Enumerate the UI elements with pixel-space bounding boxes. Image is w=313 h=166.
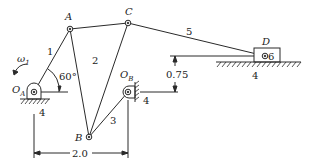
omega-arrowhead-icon: [13, 70, 18, 75]
label-link-5: 5: [186, 26, 192, 37]
dim-arrow-right-icon: [122, 151, 128, 155]
link-1: [34, 29, 70, 92]
label-d: D: [261, 36, 270, 47]
link-2-ac: [70, 23, 128, 29]
ground-slider: [216, 62, 301, 67]
label-angle: 60°: [59, 71, 77, 82]
label-oa: OA: [12, 84, 25, 98]
dim-arrow-down-icon: [173, 86, 177, 92]
label-ground-oa: 4: [39, 107, 45, 118]
dim-arrow-up-icon: [173, 56, 177, 62]
dim-label-vertical: 0.75: [166, 69, 188, 80]
link-3: [89, 92, 128, 137]
label-link-3: 3: [110, 115, 116, 126]
dim-arrow-left-icon: [34, 151, 40, 155]
label-a: A: [64, 11, 72, 22]
link-5: [128, 23, 265, 56]
link-2-bc: [89, 23, 128, 137]
label-link-2: 2: [92, 55, 98, 66]
label-b: B: [74, 132, 82, 143]
label-c: C: [125, 6, 133, 17]
angle-arrow-icon: [58, 86, 61, 91]
label-ground-d: 4: [252, 70, 258, 81]
mechanism-diagram: A C B D OA OB 1 2 3 5 6 4 4 4 ω1 60° 2.0…: [0, 0, 313, 166]
link-2-ab: [70, 29, 89, 137]
label-link-1: 1: [47, 46, 53, 57]
label-link-6: 6: [268, 51, 274, 62]
label-ground-ob: 4: [143, 95, 149, 106]
dim-label-horizontal: 2.0: [72, 148, 88, 159]
angle-arc: [48, 69, 59, 92]
label-ob: OB: [120, 69, 133, 83]
